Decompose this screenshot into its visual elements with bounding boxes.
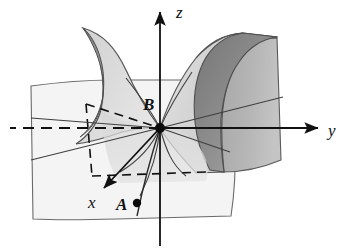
y-axis-label: y bbox=[326, 121, 336, 140]
point-label-B: B bbox=[142, 95, 154, 114]
x-axis-label: x bbox=[87, 193, 96, 212]
z-axis-label: z bbox=[175, 3, 183, 22]
point-label-A: A bbox=[115, 195, 127, 214]
curve-point-A-marker bbox=[133, 199, 141, 207]
surface-diagram: z y x B A bbox=[0, 0, 347, 252]
origin-point-B-marker bbox=[155, 123, 165, 133]
figure-container: z y x B A bbox=[0, 0, 347, 252]
